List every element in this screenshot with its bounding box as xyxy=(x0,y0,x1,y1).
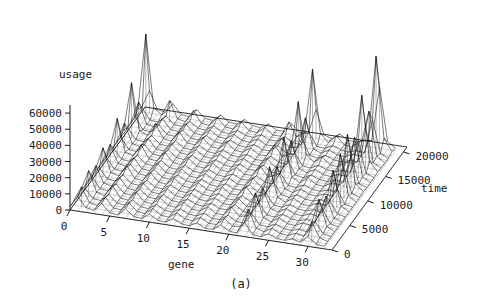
figure-3d-surface-plot: 0100002000030000400005000060000051015202… xyxy=(0,0,483,308)
z-axis-title: usage xyxy=(59,68,92,81)
y-tick-label: 0 xyxy=(344,248,351,261)
x-tick-label: 5 xyxy=(100,226,107,239)
z-tick-label: 30000 xyxy=(29,156,62,169)
wireframe-mesh xyxy=(70,34,395,249)
y-axis-title: time xyxy=(421,182,448,195)
x-tick-label: 15 xyxy=(176,238,189,251)
y-tick-label: 20000 xyxy=(415,150,448,163)
y-tick-label: 10000 xyxy=(380,199,413,212)
x-tick-label: 10 xyxy=(137,232,150,245)
z-tick-label: 0 xyxy=(55,204,62,217)
x-tick-label: 0 xyxy=(61,220,68,233)
y-tick-label: 5000 xyxy=(362,223,389,236)
axis-labels: 0100002000030000400005000060000051015202… xyxy=(29,107,449,269)
x-tick-label: 20 xyxy=(216,244,229,257)
z-tick-label: 60000 xyxy=(29,107,62,120)
z-tick-label: 50000 xyxy=(29,123,62,136)
figure-caption: (a) xyxy=(230,277,252,291)
z-tick-label: 20000 xyxy=(29,172,62,185)
plot-canvas: 0100002000030000400005000060000051015202… xyxy=(0,0,483,308)
x-tick-label: 25 xyxy=(256,250,269,263)
x-axis-title: gene xyxy=(168,258,195,271)
x-tick-label: 30 xyxy=(296,256,309,269)
z-tick-label: 40000 xyxy=(29,139,62,152)
z-tick-label: 10000 xyxy=(29,188,62,201)
